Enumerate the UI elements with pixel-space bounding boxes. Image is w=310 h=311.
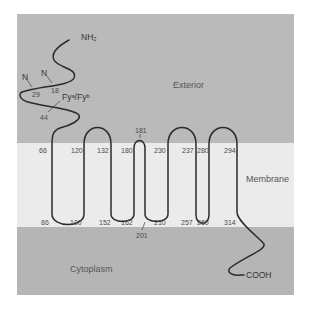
residue-314: 314 xyxy=(224,219,236,226)
residue-201: 201 xyxy=(136,232,148,239)
residue-230: 230 xyxy=(154,147,166,154)
residue-100: 100 xyxy=(70,219,82,226)
exterior-label: Exterior xyxy=(173,80,204,90)
n-terminus-label: NH₂ xyxy=(81,32,97,42)
cytoplasm-region xyxy=(17,227,294,295)
topology-diagram: Exterior Membrane Cytoplasm NH₂ N 29 N 1… xyxy=(0,0,310,311)
residue-152: 152 xyxy=(99,219,111,226)
residue-257: 257 xyxy=(181,219,193,226)
residue-120: 120 xyxy=(71,147,83,154)
c-terminus-label: COOH xyxy=(246,270,272,280)
antigen-label: Fyᵃ/Fyᵇ xyxy=(62,92,90,102)
residue-132: 132 xyxy=(97,147,109,154)
cytoplasm-label: Cytoplasm xyxy=(70,264,113,274)
residue-237: 237 xyxy=(182,147,194,154)
residue-210: 210 xyxy=(154,219,166,226)
glyco-residue-29: 29 xyxy=(32,91,40,98)
residue-260: 260 xyxy=(197,219,209,226)
membrane-region xyxy=(17,143,294,227)
antigen-residue-44: 44 xyxy=(40,114,48,121)
glyco-site-label-1: N xyxy=(22,72,28,82)
glyco-site-label-2: N xyxy=(41,68,47,78)
exterior-region xyxy=(17,14,294,143)
membrane-label: Membrane xyxy=(246,174,289,184)
residue-294: 294 xyxy=(224,147,236,154)
glyco-residue-18: 18 xyxy=(51,87,59,94)
residue-181: 181 xyxy=(135,127,147,134)
residue-86: 86 xyxy=(41,219,49,226)
residue-162: 162 xyxy=(121,219,133,226)
residue-180: 180 xyxy=(121,147,133,154)
residue-66: 66 xyxy=(39,147,47,154)
residue-280: 280 xyxy=(197,147,209,154)
